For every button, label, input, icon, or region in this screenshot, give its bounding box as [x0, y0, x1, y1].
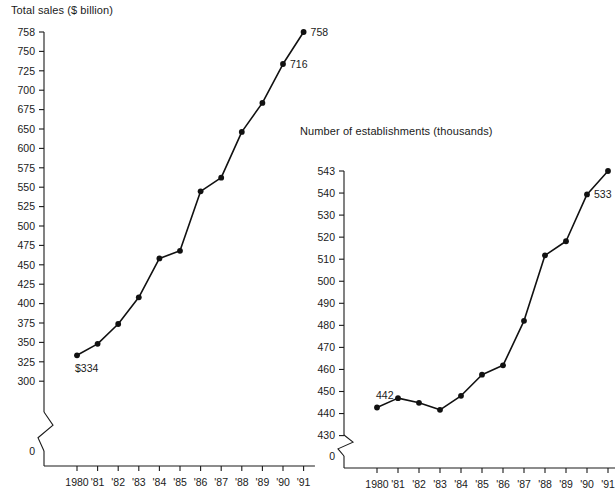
x-axis-tick-label: '85 [475, 478, 489, 490]
x-axis-tick-label: '82 [412, 478, 426, 490]
data-point-label: 716 [290, 58, 308, 70]
y-axis-tick-label: 700 [17, 84, 35, 96]
x-axis-tick-label: 1980 [365, 478, 389, 490]
y-axis-tick-label-zero: 0 [29, 445, 35, 457]
data-point-marker [239, 129, 245, 135]
data-point-marker [458, 393, 464, 399]
y-axis-tick-label: 600 [17, 142, 35, 154]
x-axis-tick-label: '91 [601, 478, 615, 490]
x-axis-tick-label: '83 [132, 476, 146, 488]
y-axis-tick-label: 575 [17, 162, 35, 174]
y-axis-tick-label: 530 [317, 209, 335, 221]
data-point-marker [280, 61, 286, 67]
x-axis-tick-label: '84 [153, 476, 167, 488]
y-axis-tick-label: 500 [17, 220, 35, 232]
y-axis-tick-label: 425 [17, 278, 35, 290]
data-point-marker [198, 188, 204, 194]
x-axis-tick-label: '89 [559, 478, 573, 490]
x-axis-tick-label: '81 [391, 478, 405, 490]
y-axis-tick-label: 758 [17, 26, 35, 38]
y-axis-tick-label: 440 [317, 407, 335, 419]
y-axis-tick-label: 350 [17, 336, 35, 348]
x-axis-tick-label: '88 [235, 476, 249, 488]
total-sales-plot-area: 7587507257006756506005755505255004754504… [0, 0, 330, 491]
x-axis-tick-label: '90 [580, 478, 594, 490]
data-point-marker [500, 362, 506, 368]
data-point-marker [479, 372, 485, 378]
x-axis-tick-label: '87 [517, 478, 531, 490]
data-point-marker [521, 318, 527, 324]
y-axis-tick-label: 460 [317, 363, 335, 375]
y-axis-tick-label: 470 [317, 341, 335, 353]
data-point-label: 758 [311, 26, 329, 38]
y-axis-tick-label: 430 [317, 429, 335, 441]
y-axis-tick-label: 480 [317, 319, 335, 331]
y-axis-tick-label: 520 [317, 231, 335, 243]
data-point-marker [301, 29, 307, 35]
data-point-marker [74, 352, 80, 358]
x-axis-tick-label: '88 [538, 478, 552, 490]
data-point-marker [563, 238, 569, 244]
x-axis-tick-label: 1980 [65, 476, 89, 488]
y-axis-tick-label: 300 [17, 375, 35, 387]
y-axis-tick-label: 400 [17, 297, 35, 309]
x-axis-tick-label: '86 [496, 478, 510, 490]
x-axis-tick-label: '82 [111, 476, 125, 488]
y-axis-tick-label: 375 [17, 317, 35, 329]
data-point-marker [260, 100, 266, 106]
x-axis-tick-label: '83 [433, 478, 447, 490]
x-axis-tick-label: '87 [214, 476, 228, 488]
data-point-label: 442 [376, 389, 394, 401]
y-axis-tick-label: 550 [17, 181, 35, 193]
y-axis-tick-label-zero: 0 [329, 450, 335, 462]
data-point-label: 533 [594, 188, 612, 200]
y-axis-tick-label: 650 [17, 123, 35, 135]
y-axis-tick-label: 490 [317, 297, 335, 309]
data-point-marker [374, 405, 380, 411]
y-axis-tick-label: 325 [17, 356, 35, 368]
y-axis-tick-label: 500 [317, 275, 335, 287]
data-point-marker [136, 294, 142, 300]
y-axis-tick-label: 675 [17, 103, 35, 115]
data-point-marker [542, 252, 548, 258]
y-axis-tick-label: 475 [17, 239, 35, 251]
data-point-marker [395, 395, 401, 401]
data-point-marker [115, 321, 121, 327]
data-point-marker [437, 407, 443, 413]
total-sales-chart: Total sales ($ billion) 7587507257006756… [0, 0, 330, 491]
y-axis-tick-label: 510 [317, 253, 335, 265]
establishments-plot-area: 5435405305205105004904804704604504404300… [295, 123, 615, 491]
x-axis-tick-label: '89 [256, 476, 270, 488]
y-axis-tick-label: 450 [17, 259, 35, 271]
data-point-marker [584, 192, 590, 198]
y-axis-tick-label: 540 [317, 187, 335, 199]
y-axis-tick-label: 450 [317, 385, 335, 397]
data-point-marker [95, 341, 101, 347]
x-axis-tick-label: '86 [194, 476, 208, 488]
y-axis-tick-label: 543 [317, 165, 335, 177]
data-point-marker [177, 248, 183, 254]
establishments-chart: Number of establishments (thousands) 543… [295, 123, 615, 491]
data-point-marker [605, 168, 611, 174]
data-point-marker [416, 400, 422, 406]
data-point-marker [157, 256, 163, 262]
x-axis-tick-label: '90 [276, 476, 290, 488]
x-axis-tick-label: '81 [91, 476, 105, 488]
data-point-label: $334 [75, 362, 99, 374]
y-axis-tick-label: 525 [17, 200, 35, 212]
y-axis-tick-label: 750 [17, 45, 35, 57]
x-axis-tick-label: '85 [173, 476, 187, 488]
x-axis-tick-label: '84 [454, 478, 468, 490]
data-point-marker [218, 175, 224, 181]
y-axis-tick-label: 725 [17, 65, 35, 77]
